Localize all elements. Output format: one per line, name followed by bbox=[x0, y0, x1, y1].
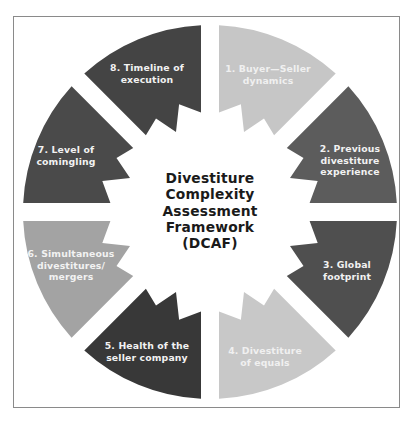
segment-3-label: 3. Global footprint bbox=[323, 259, 371, 282]
segment-7-label: 7. Level of comingling bbox=[36, 144, 95, 167]
segment-6-label: 6. Simultaneous divestitures/ mergers bbox=[27, 248, 114, 283]
segment-5-label: 5. Health of the seller company bbox=[105, 340, 190, 363]
segment-8-label: 8. Timeline of execution bbox=[110, 62, 184, 85]
center-title: Divestiture Complexity Assessment Framew… bbox=[150, 170, 270, 251]
segment-2-label: 2. Previous divestiture experience bbox=[320, 143, 380, 178]
segment-4-label: 4. Divestiture of equals bbox=[228, 345, 302, 368]
segment-1-label: 1. Buyer—Seller dynamics bbox=[225, 63, 311, 86]
